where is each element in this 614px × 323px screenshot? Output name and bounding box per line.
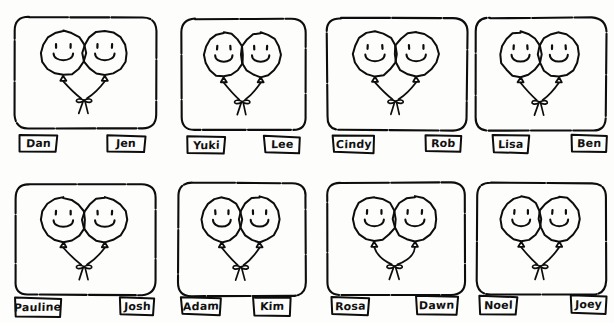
name-label[interactable]: Noel [478,295,518,316]
name-label-text: Adam [183,300,219,312]
name-label[interactable]: Dawn [415,295,459,316]
name-label-text: Yuki [192,139,219,151]
balloon-panel [14,183,157,296]
panel-border [14,183,157,296]
name-label[interactable]: Pauline [14,297,62,318]
name-label[interactable]: Cindy [332,134,375,154]
balloon-panel [14,16,157,130]
balloon-panel [475,17,607,132]
name-label-text: Jen [116,138,136,149]
panel-border [14,16,157,130]
balloon-panel [326,182,466,296]
name-label-text: Josh [123,300,150,312]
name-label[interactable]: Ben [570,134,608,153]
balloon-panel [326,17,468,131]
name-label[interactable]: Rosa [330,296,370,316]
name-label[interactable]: Joey [570,294,608,315]
name-label[interactable]: Yuki [186,135,226,155]
panel-border [326,182,466,296]
name-label[interactable]: Adam [180,296,222,316]
name-label-text: Cindy [335,138,371,150]
balloon-panel [180,18,307,131]
panel-border [475,17,607,132]
panel-border [180,18,307,131]
name-label-text: Noel [483,300,512,312]
name-label-text: Dan [25,138,50,150]
name-label-text: Rob [431,138,456,150]
sketch-canvas: DanJenYukiLeeCindyRobLisaBenPaulineJoshA… [0,0,614,323]
name-label[interactable]: Jen [106,134,146,153]
name-label[interactable]: Lisa [492,134,530,154]
balloon-panel [177,182,307,297]
name-label[interactable]: Lee [263,135,301,154]
panel-border [177,182,307,297]
name-label[interactable]: Kim [252,296,292,317]
name-label-text: Rosa [334,300,365,312]
balloon-panel [476,182,607,296]
name-label-text: Ben [577,138,602,150]
name-label[interactable]: Josh [119,296,155,316]
name-label[interactable]: Rob [424,134,462,153]
panel-border [476,182,607,296]
name-label[interactable]: Dan [18,134,58,153]
name-label-text: Dawn [419,300,455,312]
name-label-text: Lee [271,139,294,150]
name-label-text: Lisa [498,138,524,150]
name-label-text: Kim [260,301,285,313]
name-label-text: Pauline [14,302,62,314]
panel-border [326,17,468,131]
name-label-text: Joey [575,299,602,311]
